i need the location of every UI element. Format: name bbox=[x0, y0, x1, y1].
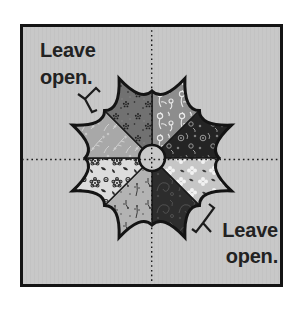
leave-open-label-top-left: Leave open. bbox=[40, 37, 96, 91]
label-line: open. bbox=[222, 243, 278, 269]
label-line: Leave bbox=[40, 37, 96, 64]
label-line: Leave bbox=[222, 217, 278, 243]
leave-open-label-bottom-right: Leave open. bbox=[222, 217, 278, 269]
pattern-diagram-page: Leave open. Leave open. bbox=[0, 0, 301, 315]
label-line: open. bbox=[40, 64, 96, 91]
